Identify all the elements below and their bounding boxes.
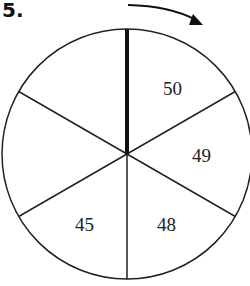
section-label-49: 49 xyxy=(192,145,211,166)
section-label-45: 45 xyxy=(75,214,94,235)
clockwise-arrow-icon xyxy=(128,5,203,25)
section-label-50: 50 xyxy=(163,78,182,99)
section-label-48: 48 xyxy=(157,214,176,235)
spinner-diagram: 50 49 48 45 xyxy=(0,0,250,286)
